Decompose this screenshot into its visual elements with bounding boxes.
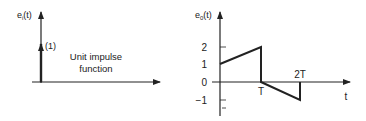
- impulse-weight-label: (1): [45, 41, 56, 51]
- right-plot: e0(t) 2 1 0 −1 T 2T t: [195, 10, 350, 116]
- x-axis-label: t: [345, 91, 348, 102]
- left-plot: ei(t) (1) Unit impulse function: [17, 10, 160, 83]
- x-tick-label-T: T: [258, 86, 264, 97]
- diagram-canvas: ei(t) (1) Unit impulse function e0(t) 2 …: [0, 0, 366, 121]
- left-y-label: ei(t): [17, 10, 32, 21]
- y-tick-label-minus1: −1: [196, 95, 208, 106]
- y-tick-label-2: 2: [201, 42, 207, 53]
- x-tick-label-2T: 2T: [294, 69, 306, 80]
- caption-line2: function: [79, 63, 112, 74]
- caption-line1: Unit impulse: [70, 51, 122, 62]
- y-tick-label-0: 0: [201, 77, 207, 88]
- y-tick-label-1: 1: [201, 59, 207, 70]
- right-y-label: e0(t): [195, 10, 212, 21]
